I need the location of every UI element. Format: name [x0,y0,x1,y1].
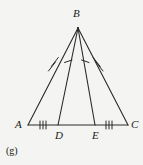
tick-marks-segment-BE [82,60,90,63]
geometry-figure: B A D E C (g) [0,0,143,165]
vertex-label-E: E [92,130,99,141]
triangle-diagram-canvas [0,0,143,165]
figure-caption: (g) [6,146,18,156]
segment-BD [58,28,78,125]
segment-BC [78,28,128,125]
segment-AB [28,28,78,125]
tick-marks-segment-BC [93,58,103,72]
vertex-label-A: A [15,119,22,130]
segment-BE [78,28,95,125]
vertex-point-B [77,27,79,29]
vertex-label-B: B [73,8,80,19]
vertex-label-C: C [131,119,138,130]
vertex-label-D: D [55,130,63,141]
